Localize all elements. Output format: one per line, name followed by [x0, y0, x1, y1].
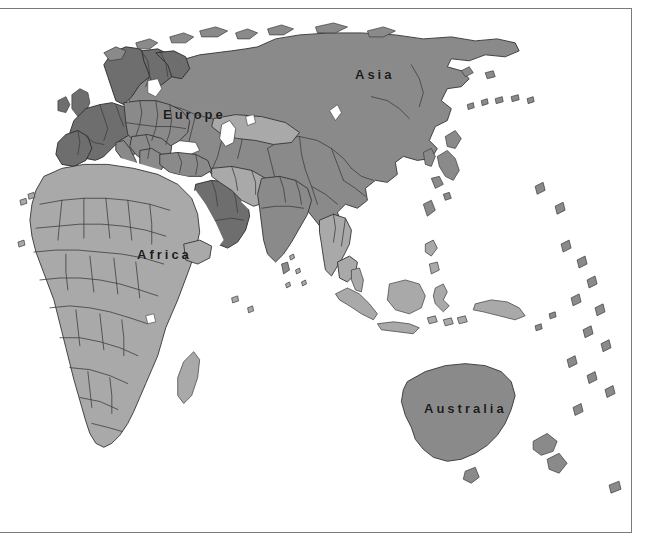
map-frame: .land { fill:#8a8a8a; stroke:#343434; st… — [0, 8, 632, 533]
screenshot-root: .land { fill:#8a8a8a; stroke:#343434; st… — [0, 0, 652, 550]
world-map-graphic[interactable]: .land { fill:#8a8a8a; stroke:#343434; st… — [0, 9, 631, 532]
lake-victoria — [146, 314, 156, 324]
